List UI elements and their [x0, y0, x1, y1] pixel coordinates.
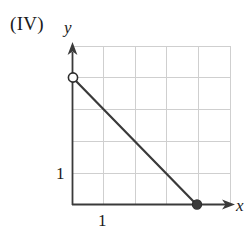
axis-lines	[72, 52, 226, 205]
grid-lines	[73, 47, 231, 205]
y-axis-label: y	[64, 19, 72, 36]
closed-endpoint-marker	[192, 200, 201, 209]
panel-label: (IV)	[10, 14, 44, 33]
x-tick-label: 1	[98, 212, 107, 229]
open-endpoint-marker	[68, 73, 77, 82]
y-tick-label: 1	[56, 165, 65, 182]
plot-svg	[0, 0, 252, 252]
x-axis-label: x	[236, 197, 244, 214]
figure-panel: (IV) y x 1 1	[0, 0, 252, 252]
